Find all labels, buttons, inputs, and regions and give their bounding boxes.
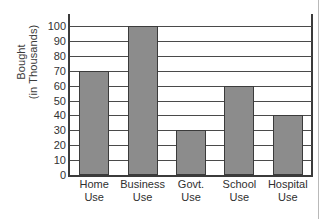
x-axis-category-label: SchoolUse xyxy=(212,178,266,205)
x-axis-category-label-line-1: Home xyxy=(67,178,121,191)
y-axis-tick-label: 20 xyxy=(54,140,66,151)
plot-right-border-line xyxy=(311,14,313,175)
x-axis-category-label-line-1: Business xyxy=(115,178,169,191)
x-axis-category-label-line-2: Use xyxy=(261,191,315,204)
x-axis-category-label-line-1: Hospital xyxy=(261,178,315,191)
x-axis-line xyxy=(68,175,313,177)
bar xyxy=(176,130,206,175)
y-axis-tick-label: 10 xyxy=(54,155,66,166)
gridline xyxy=(70,26,312,27)
plot-area: 0102030405060708090100 HomeUseBusinessUs… xyxy=(70,26,312,175)
bar xyxy=(224,86,254,175)
bar xyxy=(273,115,303,175)
x-axis-category-label-line-2: Use xyxy=(212,191,266,204)
x-axis-category-label-line-1: School xyxy=(212,178,266,191)
x-axis-category-label-line-1: Govt. xyxy=(164,178,218,191)
y-axis-line xyxy=(68,14,70,177)
y-axis-tick-label: 50 xyxy=(54,95,66,106)
y-axis-tick-label: 60 xyxy=(54,80,66,91)
bar xyxy=(79,71,109,175)
x-axis-category-label-line-2: Use xyxy=(115,191,169,204)
y-axis-tick-label: 100 xyxy=(48,21,66,32)
y-axis-tick-label: 0 xyxy=(60,170,66,181)
x-axis-category-label: Govt.Use xyxy=(164,178,218,205)
y-axis-tick-label: 90 xyxy=(54,35,66,46)
gridline xyxy=(70,56,312,57)
y-axis-tick-label: 30 xyxy=(54,125,66,136)
bar xyxy=(128,26,158,175)
y-axis-title-line-2: (in Thousands) xyxy=(28,25,40,100)
bar-chart: Bought (in Thousands) 010203040506070809… xyxy=(0,0,329,219)
x-axis-category-label-line-2: Use xyxy=(67,191,121,204)
page-border-line xyxy=(318,0,319,219)
x-axis-category-label-line-2: Use xyxy=(164,191,218,204)
y-axis-tick-label: 70 xyxy=(54,65,66,76)
x-axis-category-label: HospitalUse xyxy=(261,178,315,205)
gridline xyxy=(70,41,312,42)
x-axis-category-label: HomeUse xyxy=(67,178,121,205)
y-axis-tick-label: 40 xyxy=(54,110,66,121)
y-axis-tick-label: 80 xyxy=(54,50,66,61)
y-axis-title: Bought (in Thousands) xyxy=(11,0,45,137)
x-axis-category-label: BusinessUse xyxy=(115,178,169,205)
